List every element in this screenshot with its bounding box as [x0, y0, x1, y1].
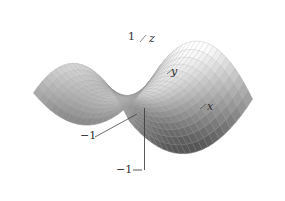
z-axis-label: z [149, 33, 155, 44]
z-top-tick-label: 1 [128, 31, 135, 42]
x-axis-label: x [207, 101, 213, 112]
surface-plot-canvas [0, 0, 285, 201]
bottom-tick-label: −1 [116, 164, 132, 175]
left-tick-label: −1 [80, 130, 96, 141]
surface-plot-figure: z y x 1 −1 −1 [0, 0, 285, 201]
surface-shaded-body [34, 41, 253, 154]
y-axis-label: y [171, 66, 177, 77]
